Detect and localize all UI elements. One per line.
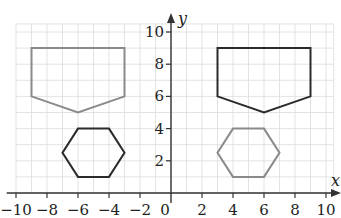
x-tick-label: −6 [67,201,89,218]
y-tick-label: 4 [154,120,164,138]
x-tick-label: 4 [228,201,238,218]
y-axis-label: y [177,9,188,28]
coordinate-grid-diagram: x y −10−8−6−4−20246810 246810 [0,0,341,218]
x-tick-label: 0 [160,201,170,218]
y-tick-label: 2 [154,152,164,170]
coordinate-plane: x y −10−8−6−4−20246810 246810 [0,0,341,218]
x-tick-label: 2 [197,201,207,218]
y-tick-label: 10 [145,23,164,41]
x-tick-label: 6 [259,201,269,218]
x-axis-label: x [331,171,340,190]
x-tick-label: −10 [0,201,32,218]
y-axis-arrow-icon [167,13,175,23]
x-tick-label: 10 [316,201,335,218]
x-axis-ticks: −10−8−6−4−20246810 [0,193,335,218]
x-axis-arrow-icon [331,189,341,197]
x-tick-label: −2 [129,201,151,218]
x-tick-label: 8 [290,201,300,218]
y-tick-label: 6 [154,87,164,105]
x-tick-label: −8 [36,201,58,218]
y-tick-label: 8 [154,55,164,73]
x-tick-label: −4 [98,201,120,218]
